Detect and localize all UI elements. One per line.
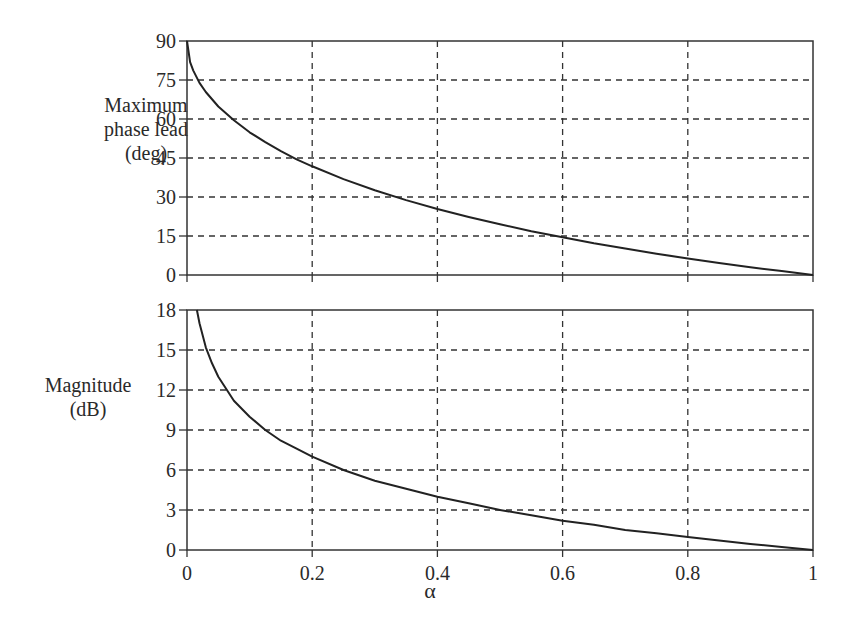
x-tick-label: 0.2 <box>300 562 325 584</box>
magnitude-y-tick-label: 9 <box>166 419 176 441</box>
phase-y-tick-label: 0 <box>166 264 176 286</box>
phase-y-tick-label: 15 <box>156 225 176 247</box>
magnitude-y-tick-label: 6 <box>166 459 176 481</box>
magnitude-y-tick-label: 15 <box>156 339 176 361</box>
phase-y-tick-label: 45 <box>156 147 176 169</box>
x-tick-label: 0.6 <box>550 562 575 584</box>
magnitude-plot: 036912151800.20.40.60.81 <box>156 299 818 584</box>
phase-y-tick-label: 60 <box>156 108 176 130</box>
magnitude-y-tick-label: 12 <box>156 379 176 401</box>
phase-y-tick-label: 90 <box>156 30 176 52</box>
x-axis-label-alpha: α <box>424 578 436 603</box>
x-tick-label: 1 <box>808 562 818 584</box>
x-tick-label: 0 <box>182 562 192 584</box>
magnitude-y-tick-label: 18 <box>156 299 176 321</box>
phase-y-tick-label: 30 <box>156 186 176 208</box>
phase-lead-plot: 0153045607590 <box>156 30 813 286</box>
phase-y-tick-label: 75 <box>156 69 176 91</box>
chart-figure: 0153045607590 036912151800.20.40.60.81 α <box>0 0 844 619</box>
magnitude-y-tick-label: 3 <box>166 499 176 521</box>
x-tick-label: 0.8 <box>675 562 700 584</box>
magnitude-y-tick-label: 0 <box>166 539 176 561</box>
